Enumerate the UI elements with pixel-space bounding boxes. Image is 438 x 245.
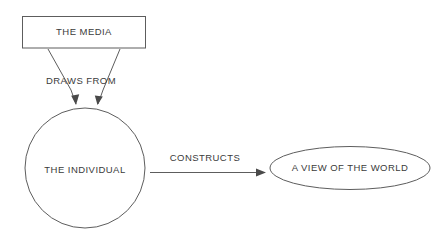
edge-draws-from-label: DRAWS FROM bbox=[46, 75, 116, 86]
node-worldview-label: A VIEW OF THE WORLD bbox=[292, 162, 409, 173]
diagram-svg: THE MEDIA THE INDIVIDUAL A VIEW OF THE W… bbox=[0, 0, 438, 245]
edge-constructs-label: CONSTRUCTS bbox=[170, 152, 240, 163]
diagram-canvas: THE MEDIA THE INDIVIDUAL A VIEW OF THE W… bbox=[0, 0, 438, 245]
edge-constructs-arrowhead bbox=[256, 169, 266, 177]
node-individual-label: THE INDIVIDUAL bbox=[44, 164, 125, 175]
node-media-label: THE MEDIA bbox=[56, 26, 112, 37]
edge-draws-from-arrowhead-right bbox=[95, 95, 103, 105]
edge-draws-from-arrowhead-left bbox=[71, 94, 79, 105]
